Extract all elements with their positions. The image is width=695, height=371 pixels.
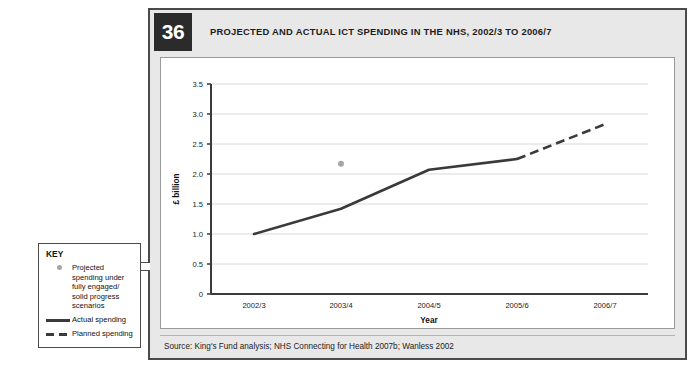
key-item-actual: Actual spending — [46, 315, 134, 325]
y-tick-label: 3.0 — [192, 110, 203, 119]
dashed-line-icon — [46, 329, 72, 336]
x-tick-label: 2004/5 — [417, 301, 440, 310]
key-connector — [141, 262, 150, 271]
key-title: KEY — [46, 249, 134, 259]
y-tick-label: 2.5 — [192, 140, 203, 149]
x-axis-tick-labels: 2002/3 2003/4 2004/5 2005/6 2006/7 — [242, 301, 616, 310]
chart-plot-panel: 3.5 3.0 2.5 2.0 1.5 1.0 0.5 0 £ billion … — [160, 57, 675, 329]
y-axis-tick-labels: 3.5 3.0 2.5 2.0 1.5 1.0 0.5 0 — [192, 80, 203, 299]
key-item-label: Actual spending — [72, 315, 126, 325]
figure-frame: 36 PROJECTED AND ACTUAL ICT SPENDING IN … — [148, 8, 687, 360]
figure-title: PROJECTED AND ACTUAL ICT SPENDING IN THE… — [210, 26, 552, 37]
chart-axes — [207, 84, 648, 294]
y-tick-label: 2.0 — [192, 170, 203, 179]
y-tick-label: 0 — [199, 290, 203, 299]
x-axis-title: Year — [420, 316, 438, 325]
source-text: Source: King's Fund analysis; NHS Connec… — [160, 342, 454, 351]
x-tick-label: 2005/6 — [505, 301, 528, 310]
y-tick-label: 1.0 — [192, 230, 203, 239]
key-item-projected: Projected spending under fully engaged/ … — [46, 263, 134, 311]
figure-screenshot: 36 PROJECTED AND ACTUAL ICT SPENDING IN … — [0, 0, 695, 371]
series-projected-spending-point — [338, 161, 344, 167]
y-tick-label: 0.5 — [192, 260, 203, 269]
x-tick-label: 2006/7 — [593, 301, 616, 310]
source-strip: Source: King's Fund analysis; NHS Connec… — [160, 335, 675, 356]
series-planned-spending — [517, 124, 605, 159]
key-item-label: Planned spending — [72, 329, 133, 339]
series-actual-spending — [254, 159, 517, 234]
solid-line-icon — [46, 315, 72, 322]
key-item-label: Projected spending under fully engaged/ … — [72, 263, 134, 311]
y-axis-title: £ billion — [172, 174, 181, 205]
y-tick-label: 3.5 — [192, 80, 203, 89]
y-tick-label: 1.5 — [192, 200, 203, 209]
figure-number-badge: 36 — [154, 13, 192, 51]
chart-gridlines — [211, 84, 648, 264]
x-tick-label: 2002/3 — [242, 301, 265, 310]
figure-header: 36 PROJECTED AND ACTUAL ICT SPENDING IN … — [150, 10, 685, 53]
key-legend-box: KEY Projected spending under fully engag… — [38, 243, 141, 348]
projected-dot-icon — [46, 263, 72, 270]
x-tick-label: 2003/4 — [329, 301, 352, 310]
line-chart: 3.5 3.0 2.5 2.0 1.5 1.0 0.5 0 £ billion … — [161, 58, 674, 328]
key-item-planned: Planned spending — [46, 329, 134, 339]
